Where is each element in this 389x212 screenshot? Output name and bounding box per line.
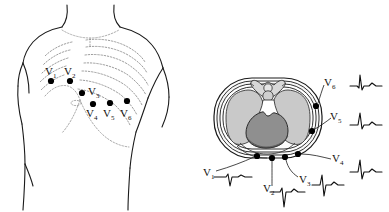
ecg-trace-v1 [214, 174, 252, 186]
section-dot-v1 [254, 153, 260, 159]
ribs [40, 39, 148, 125]
ecg-lead-placement-figure: V1 V2 V3 V4 V5 V6 [0, 0, 389, 212]
section-label-v1: V1 [203, 166, 215, 181]
section-dot-v5 [309, 128, 315, 134]
section-label-v3: V3 [299, 173, 311, 188]
electrode-dot-v6 [124, 98, 130, 104]
ecg-trace-v2 [270, 188, 305, 207]
chest-label-v6: V6 [120, 107, 132, 122]
section-label-v5: V5 [330, 110, 342, 125]
chest-label-v5: V5 [103, 107, 115, 122]
heart [246, 112, 288, 148]
ecg-trace-v4 [350, 160, 382, 179]
clavicle-sternum [62, 30, 119, 46]
electrode-dot-v3 [79, 90, 85, 96]
chest-label-v4: V4 [86, 107, 98, 122]
section-dot-v2 [269, 155, 275, 161]
section-label-v2: V2 [263, 182, 275, 197]
chest-label-v2: V2 [64, 65, 76, 80]
section-dot-v6 [313, 103, 319, 109]
section-dot-v4 [295, 151, 301, 157]
ecg-trace-v5 [350, 113, 382, 129]
ecg-trace-v3 [312, 175, 344, 196]
section-dot-v3 [282, 154, 288, 160]
chest-label-v1: V1 [45, 65, 57, 80]
section-label-v6: V6 [324, 76, 336, 91]
ecg-trace-v6 [350, 75, 382, 90]
panel-transverse-section: V1 V2 V3 V4 V5 V6 [203, 75, 382, 207]
chest-label-v3: V3 [88, 85, 100, 100]
electrode-dot-v5 [107, 100, 113, 106]
panel-anterior-chest: V1 V2 V3 V4 V5 V6 [18, 5, 169, 210]
section-label-v4: V4 [332, 152, 344, 167]
